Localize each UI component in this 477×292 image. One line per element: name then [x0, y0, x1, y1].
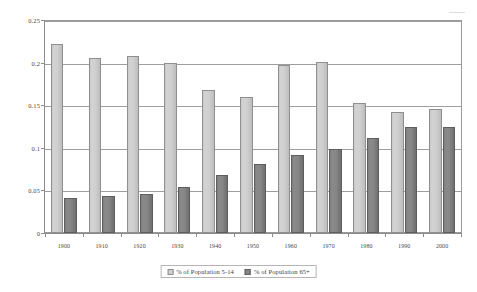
x-tick-label: 1920 — [133, 243, 145, 249]
bar-1920-series-2 — [140, 194, 153, 233]
bar-1910-series-2 — [102, 196, 115, 233]
bar-1980-series-1 — [353, 103, 366, 233]
bar-2000-series-2 — [443, 127, 456, 233]
x-tick-label: 1950 — [247, 243, 259, 249]
bar-1930-series-1 — [164, 63, 177, 233]
bar-1910-series-1 — [89, 58, 102, 233]
x-tick-mark — [121, 234, 122, 237]
y-tick-label: 0.1 — [32, 144, 40, 151]
x-tick-label: 1960 — [285, 243, 297, 249]
legend-label: % of Population 5-14 — [176, 268, 234, 275]
legend-item-2[interactable]: % of Population 65+ — [245, 268, 310, 275]
x-tick-mark — [385, 234, 386, 237]
x-tick-mark — [45, 234, 46, 237]
bar-1990-series-2 — [405, 127, 418, 234]
bar-1940-series-1 — [202, 90, 215, 233]
x-tick-mark — [423, 234, 424, 237]
x-tick-label: 1910 — [96, 243, 108, 249]
bar-2000-series-1 — [429, 109, 442, 233]
bar-1960-series-2 — [291, 155, 304, 233]
chart-legend: % of Population 5-14% of Population 65+ — [160, 265, 317, 278]
y-tick-label: 0.05 — [28, 187, 40, 194]
bar-chart: 00.050.10.150.20.25 19001910192019301940… — [0, 0, 477, 292]
x-tick-mark — [461, 234, 462, 237]
y-axis-ticks: 00.050.10.150.20.25 — [0, 0, 40, 292]
bar-1940-series-2 — [216, 175, 229, 233]
x-tick-mark — [234, 234, 235, 237]
legend-label: % of Population 65+ — [254, 268, 310, 275]
x-tick-mark — [196, 234, 197, 237]
y-tick-label: 0.15 — [28, 102, 40, 109]
x-tick-mark — [158, 234, 159, 237]
y-tick-label: 0.2 — [32, 59, 40, 66]
bar-1970-series-1 — [316, 62, 329, 233]
bar-1950-series-1 — [240, 97, 253, 233]
bar-1970-series-2 — [329, 149, 342, 233]
x-tick-mark — [83, 234, 84, 237]
x-tick-mark — [348, 234, 349, 237]
x-tick-label: 1970 — [322, 243, 334, 249]
x-tick-label: 1940 — [209, 243, 221, 249]
x-tick-label: 1990 — [398, 243, 410, 249]
bars-layer — [45, 20, 461, 233]
x-tick-label: 1900 — [58, 243, 70, 249]
legend-swatch-icon — [167, 269, 173, 275]
x-axis-line — [44, 233, 462, 234]
bar-1930-series-2 — [178, 187, 191, 233]
y-tick-label: 0.25 — [28, 17, 40, 24]
bar-1990-series-1 — [391, 112, 404, 233]
x-tick-label: 1980 — [360, 243, 372, 249]
bar-1900-series-1 — [51, 44, 64, 233]
legend-item-1[interactable]: % of Population 5-14 — [167, 268, 234, 275]
y-tick-label: 0 — [37, 230, 40, 237]
legend-swatch-icon — [245, 269, 251, 275]
x-tick-mark — [272, 234, 273, 237]
x-tick-label: 2000 — [436, 243, 448, 249]
bar-1920-series-1 — [127, 56, 140, 233]
x-tick-label: 1930 — [171, 243, 183, 249]
bar-1980-series-2 — [367, 138, 380, 233]
corner-artifact — [449, 6, 465, 13]
bar-1960-series-1 — [278, 65, 291, 233]
x-tick-mark — [310, 234, 311, 237]
bar-1900-series-2 — [64, 198, 77, 233]
bar-1950-series-2 — [254, 164, 267, 233]
